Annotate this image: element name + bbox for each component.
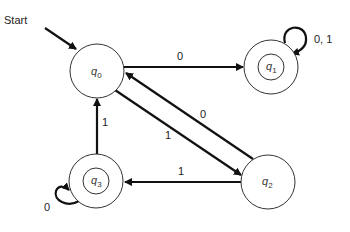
transition-label-q3-loop: 0: [44, 201, 50, 213]
state-q0: q0: [70, 44, 124, 98]
transition-q2-q0: [126, 73, 253, 159]
transition-label-q2-q3: 1: [178, 165, 184, 177]
start-arrow: [45, 28, 76, 49]
transition-label-q2-q0: 0: [200, 108, 206, 120]
start-label: Start: [4, 14, 27, 26]
transition-label-q3-q0: 1: [102, 116, 108, 128]
dfa-diagram: Start 0 0, 1 1 0 1 1 0 q0 q1 q2 q3: [0, 0, 350, 232]
state-q1: q1: [244, 40, 298, 94]
state-q3: q3: [69, 154, 123, 208]
transition-label-q0-q2: 1: [165, 129, 171, 141]
transition-q0-q2: [115, 90, 241, 175]
state-q2: q2: [241, 155, 295, 209]
transition-label-q1-loop: 0, 1: [314, 33, 332, 45]
transition-label-q0-q1: 0: [177, 50, 183, 62]
